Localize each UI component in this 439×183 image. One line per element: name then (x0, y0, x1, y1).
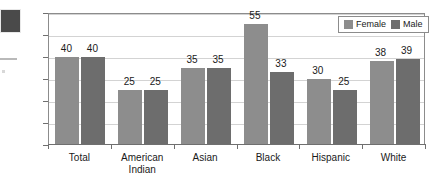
x-axis-category-label: Hispanic (299, 152, 362, 164)
scan-artifact-dot (2, 70, 5, 73)
x-axis-category-label: Total (48, 152, 111, 164)
bar-value-label: 38 (369, 48, 393, 58)
legend-entry: Female (344, 20, 386, 29)
x-axis-tick-mark (299, 145, 300, 149)
bar-male (81, 57, 105, 145)
x-axis-category-label: Black (237, 152, 300, 164)
bar-value-label: 40 (80, 44, 104, 54)
x-axis-category-label: White (362, 152, 425, 164)
bar-male (207, 68, 231, 145)
x-axis-category-label: American Indian (111, 152, 174, 176)
bar-value-label: 33 (269, 59, 293, 69)
x-axis-tick-mark (111, 145, 112, 149)
bar-value-label: 39 (395, 46, 419, 56)
chart-legend: FemaleMale (338, 16, 429, 33)
legend-entry: Male (391, 20, 423, 29)
bar-male (333, 90, 357, 145)
bar-female (307, 79, 331, 145)
female-swatch-icon (344, 20, 353, 29)
legend-label: Female (356, 20, 386, 29)
legend-label: Male (403, 20, 423, 29)
bar-female (118, 90, 142, 145)
bar-value-label: 35 (206, 55, 230, 65)
scan-artifact-rule (0, 58, 17, 60)
bar-male (270, 72, 294, 145)
bar-value-label: 25 (117, 77, 141, 87)
bar-value-label: 30 (306, 66, 330, 76)
bar-value-label: 25 (332, 77, 356, 87)
bar-female (244, 24, 268, 145)
bar-value-label: 40 (54, 44, 78, 54)
bar-chart-figure: 0102030405060 TotalAmerican IndianAsianB… (0, 0, 439, 183)
x-axis-tick-mark (425, 145, 426, 149)
gridline (49, 14, 424, 15)
bar-female (55, 57, 79, 145)
bar-female (181, 68, 205, 145)
x-axis-tick-mark (174, 145, 175, 149)
bar-male (396, 59, 420, 145)
male-swatch-icon (391, 20, 400, 29)
bar-male (144, 90, 168, 145)
gridline (49, 36, 424, 37)
x-axis-tick-mark (362, 145, 363, 149)
bar-value-label: 55 (243, 11, 267, 21)
x-axis-tick-mark (237, 145, 238, 149)
bar-female (370, 61, 394, 145)
scan-artifact-square (1, 10, 20, 32)
bar-value-label: 35 (180, 55, 204, 65)
x-axis-category-label: Asian (174, 152, 237, 164)
x-axis-tick-mark (48, 145, 49, 149)
bar-value-label: 25 (143, 77, 167, 87)
